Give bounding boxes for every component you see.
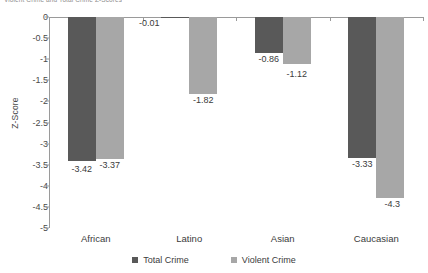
- y-axis-tick-label: -4.5: [2, 202, 48, 212]
- bar-group: -0.01-1.82: [143, 17, 237, 228]
- bar-value-label: -1.82: [182, 95, 224, 105]
- bar-total-crime[interactable]: [255, 17, 283, 53]
- x-axis-category-label: Asian: [271, 233, 295, 244]
- bar-group: -3.42-3.37: [49, 17, 143, 228]
- y-axis-tick-label: -4: [2, 181, 48, 191]
- y-axis-tick-label: -5: [2, 223, 48, 233]
- legend-item[interactable]: Total Crime: [132, 255, 189, 265]
- bar-total-crime[interactable]: [68, 17, 96, 161]
- bar-value-label: -0.01: [128, 18, 170, 28]
- chart-legend: Total CrimeViolent Crime: [0, 255, 428, 265]
- bar-value-label: -1.12: [276, 69, 318, 79]
- y-axis-tick-label: -2.5: [2, 118, 48, 128]
- y-axis-ticks: 0-0.5-1-1.5-2-2.5-3-3.5-4-4.5-5: [0, 0, 48, 273]
- bar-violent-crime[interactable]: [376, 17, 404, 198]
- y-axis-tick-label: -0.5: [2, 33, 48, 43]
- bar-chart: Violent Crime and Total Crime Z-Scores Z…: [0, 0, 428, 273]
- y-axis-tick-label: -1: [2, 54, 48, 64]
- legend-swatch-icon: [132, 257, 138, 263]
- x-axis-tick-mark: [423, 17, 424, 21]
- bar-total-crime[interactable]: [348, 17, 376, 158]
- y-axis-tick-label: -3: [2, 139, 48, 149]
- bar-value-label: -3.37: [89, 160, 131, 170]
- bar-violent-crime[interactable]: [283, 17, 311, 64]
- legend-label: Violent Crime: [242, 255, 296, 265]
- x-axis-category-label: Caucasian: [354, 233, 399, 244]
- y-axis-tick-label: -1.5: [2, 75, 48, 85]
- plot-area: -3.42-3.37-0.01-1.82-0.86-1.12-3.33-4.3: [49, 17, 423, 228]
- bar-group: -0.86-1.12: [236, 17, 330, 228]
- legend-swatch-icon: [231, 257, 237, 263]
- y-axis-tick-label: -3.5: [2, 160, 48, 170]
- x-axis-category-label: African: [81, 233, 111, 244]
- legend-label: Total Crime: [143, 255, 189, 265]
- bar-value-label: -4.3: [371, 199, 413, 209]
- y-axis-tick-label: -2: [2, 96, 48, 106]
- bar-violent-crime[interactable]: [189, 17, 217, 94]
- legend-item[interactable]: Violent Crime: [231, 255, 296, 265]
- bar-group: -3.33-4.3: [330, 17, 424, 228]
- x-axis-category-label: Latino: [176, 233, 202, 244]
- y-axis-tick-label: 0: [2, 12, 48, 22]
- bar-violent-crime[interactable]: [96, 17, 124, 159]
